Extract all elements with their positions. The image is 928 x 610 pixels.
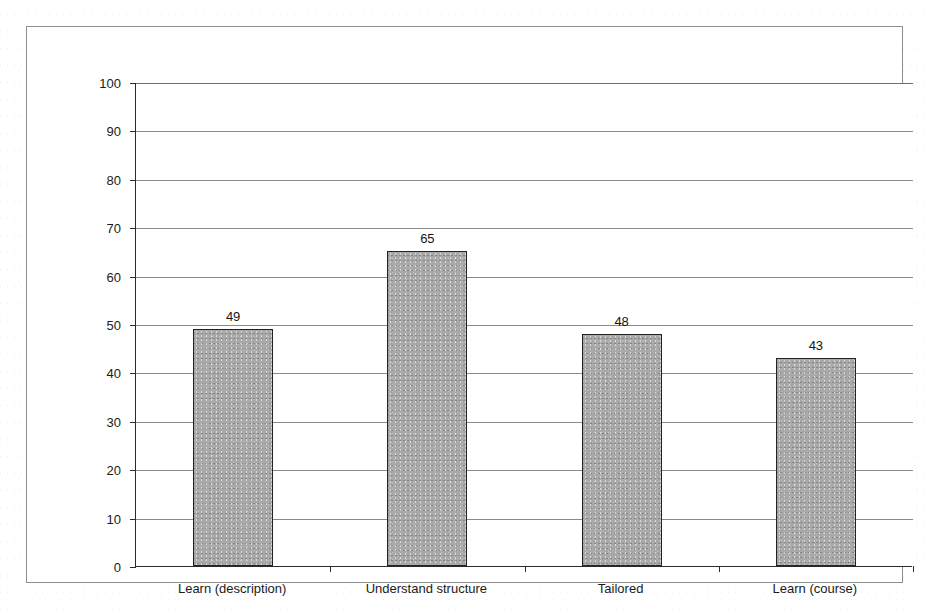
- x-axis-category-label: Learn (course): [773, 580, 858, 598]
- gridline: [136, 180, 913, 181]
- y-axis-tick-label: 70: [107, 220, 121, 238]
- bar: 49: [193, 329, 273, 566]
- y-axis-tick-label: 80: [107, 172, 121, 190]
- y-axis-tick: 10: [130, 519, 136, 520]
- y-axis-tick-label: 20: [107, 462, 121, 480]
- x-axis-tick: [913, 566, 914, 572]
- y-axis-title: Mean agreement (5-pt % scale): [63, 0, 85, 127]
- bar-value-label: 49: [226, 309, 240, 325]
- y-axis-tick: 0: [130, 567, 136, 568]
- y-axis-tick-label: 0: [114, 559, 121, 577]
- x-axis-category-label: Tailored: [598, 580, 644, 598]
- bar: 48: [582, 334, 662, 566]
- y-axis-tick: 40: [130, 373, 136, 374]
- gridline: [136, 325, 913, 326]
- bar-value-label: 43: [809, 338, 823, 354]
- gridline: [136, 228, 913, 229]
- y-axis-tick: 20: [130, 470, 136, 471]
- gridline: [136, 277, 913, 278]
- gridline: [136, 83, 913, 84]
- y-axis-tick-label: 100: [99, 75, 121, 93]
- bar-value-label: 48: [614, 314, 628, 330]
- y-axis-tick: 100: [130, 83, 136, 84]
- gridline: [136, 131, 913, 132]
- bar: 43: [776, 358, 856, 566]
- x-axis-category-label: Learn (description): [178, 580, 286, 598]
- y-axis-tick: 80: [130, 180, 136, 181]
- plot-area: 0102030405060708090100 49654843: [135, 83, 912, 567]
- y-axis-tick: 30: [130, 422, 136, 423]
- y-axis-tick: 70: [130, 228, 136, 229]
- x-axis-tick: [719, 566, 720, 572]
- x-axis-category-label: Understand structure: [366, 580, 487, 598]
- y-axis-tick: 60: [130, 277, 136, 278]
- bar-value-label: 65: [420, 231, 434, 247]
- y-axis-tick-label: 30: [107, 414, 121, 432]
- x-axis-tick: [330, 566, 331, 572]
- y-axis-tick: 90: [130, 131, 136, 132]
- y-axis-tick: 50: [130, 325, 136, 326]
- bar: 65: [387, 251, 467, 566]
- x-axis-tick: [525, 566, 526, 572]
- y-axis-tick-label: 90: [107, 123, 121, 141]
- y-axis-tick-label: 40: [107, 365, 121, 383]
- y-axis-tick-label: 10: [107, 511, 121, 529]
- y-axis-tick-label: 60: [107, 269, 121, 287]
- chart-frame: Mean agreement (5-pt % scale) 0102030405…: [26, 26, 903, 583]
- y-axis-tick-label: 50: [107, 317, 121, 335]
